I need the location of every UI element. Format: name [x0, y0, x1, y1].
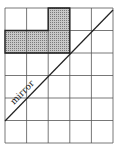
- shaded-cell: [48, 31, 70, 54]
- shaded-cell: [48, 8, 70, 31]
- shaded-cell: [27, 31, 49, 54]
- shaded-cell: [5, 31, 27, 54]
- mirror-grid-diagram: mirror: [0, 0, 118, 145]
